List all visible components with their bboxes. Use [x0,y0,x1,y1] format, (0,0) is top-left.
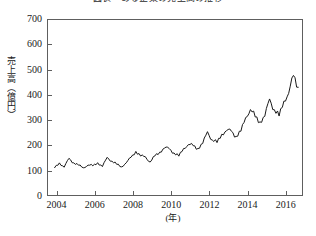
x-tick-label: 2014 [228,200,268,210]
x-tick-label: 2004 [37,200,77,210]
y-tick-label: 600 [2,39,42,49]
y-tick-label: 400 [2,90,42,100]
x-tick-mark [248,191,249,196]
x-tick-label: 2006 [75,200,115,210]
x-tick-label: 2010 [151,200,191,210]
y-tick-label: 100 [2,166,42,176]
y-tick-mark [48,120,52,121]
x-tick-mark [95,191,96,196]
chart-title: 図表 ある企業の売上高の推移 [0,0,316,3]
x-tick-mark [209,191,210,196]
y-tick-label: 500 [2,65,42,75]
y-tick-mark [48,171,52,172]
x-tick-label: 2008 [113,200,153,210]
x-tick-mark [57,191,58,196]
y-tick-mark [48,145,52,146]
y-tick-label: 300 [2,115,42,125]
x-tick-label: 2016 [266,200,306,210]
y-tick-label: 700 [2,14,42,24]
y-tick-mark [48,44,52,45]
chart-figure: 図表 ある企業の売上高の推移 売上高（億円） 01002003004005006… [0,0,316,236]
y-tick-mark [48,95,52,96]
y-tick-label: 200 [2,140,42,150]
x-tick-mark [286,191,287,196]
series-line-sales [55,75,299,167]
y-tick-mark [48,70,52,71]
x-tick-label: 2012 [189,200,229,210]
x-tick-mark [171,191,172,196]
x-tick-mark [133,191,134,196]
line-chart-svg [47,19,303,196]
x-axis-title: (年) [0,213,316,223]
